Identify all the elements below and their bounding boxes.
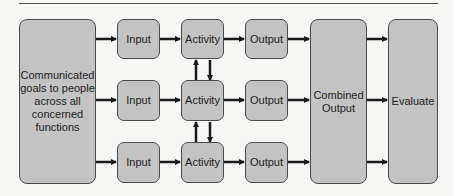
output-label: Output (250, 156, 283, 169)
input-label: Input (126, 156, 150, 169)
input-box-3: Input (117, 142, 160, 183)
output-label: Output (250, 33, 283, 46)
input-label: Input (126, 33, 150, 46)
activity-box-3: Activity (181, 142, 224, 183)
evaluate-box: Evaluate (388, 19, 438, 184)
output-label: Output (250, 94, 283, 107)
activity-box-1: Activity (181, 19, 224, 59)
source-goals-label: Communicated goals to people across all … (20, 69, 95, 134)
output-box-2: Output (245, 80, 288, 121)
input-box-2: Input (117, 80, 160, 121)
combined-output-label: Combined Output (311, 89, 366, 115)
source-goals-box: Communicated goals to people across all … (19, 19, 96, 184)
activity-label: Activity (185, 156, 220, 169)
activity-box-2: Activity (181, 80, 224, 121)
input-box-1: Input (117, 19, 160, 59)
output-box-1: Output (245, 19, 288, 59)
activity-label: Activity (185, 33, 220, 46)
evaluate-label: Evaluate (392, 95, 435, 108)
output-box-3: Output (245, 142, 288, 183)
activity-label: Activity (185, 94, 220, 107)
input-label: Input (126, 94, 150, 107)
combined-output-box: Combined Output (310, 19, 367, 184)
